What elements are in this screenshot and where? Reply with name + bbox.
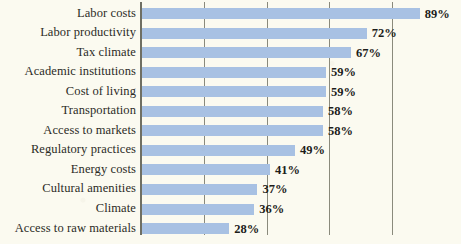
bar bbox=[142, 204, 254, 215]
category-label: Access to raw materials bbox=[0, 219, 136, 239]
bar-value-label: 58% bbox=[328, 106, 353, 117]
category-label: Academic institutions bbox=[0, 62, 136, 82]
bar bbox=[142, 125, 323, 136]
bar bbox=[142, 47, 351, 58]
plot-area: 89%72%67%59%59%58%58%49%41%37%36%28% bbox=[140, 0, 461, 244]
bar-value-label: 41% bbox=[275, 165, 300, 176]
category-label: Regulatory practices bbox=[0, 140, 136, 160]
bar bbox=[142, 28, 367, 39]
category-label: Access to markets bbox=[0, 121, 136, 141]
bar bbox=[142, 223, 229, 234]
bar-value-label: 67% bbox=[356, 48, 381, 59]
bar-value-label: 37% bbox=[262, 184, 287, 195]
bar-value-label: 58% bbox=[328, 126, 353, 137]
category-label: Energy costs bbox=[0, 160, 136, 180]
bar-value-label: 28% bbox=[234, 224, 259, 235]
horizontal-bar-chart: Labor costsLabor productivityTax climate… bbox=[0, 0, 461, 244]
bar bbox=[142, 106, 323, 117]
category-label: Cultural amenities bbox=[0, 179, 136, 199]
category-label: Cost of living bbox=[0, 82, 136, 102]
category-label: Labor costs bbox=[0, 4, 136, 24]
category-label: Labor productivity bbox=[0, 23, 136, 43]
bar bbox=[142, 184, 257, 195]
category-label: Transportation bbox=[0, 101, 136, 121]
category-label: Climate bbox=[0, 199, 136, 219]
bar-value-label: 59% bbox=[331, 67, 356, 78]
bar bbox=[142, 86, 326, 97]
bar-value-label: 49% bbox=[300, 145, 325, 156]
bar-value-label: 36% bbox=[259, 204, 284, 215]
bar bbox=[142, 8, 420, 19]
bar-value-label: 89% bbox=[425, 9, 450, 20]
bar bbox=[142, 67, 326, 78]
category-label: Tax climate bbox=[0, 43, 136, 63]
bar bbox=[142, 145, 295, 156]
bar-value-label: 72% bbox=[372, 28, 397, 39]
bar bbox=[142, 164, 270, 175]
bar-value-label: 59% bbox=[331, 87, 356, 98]
